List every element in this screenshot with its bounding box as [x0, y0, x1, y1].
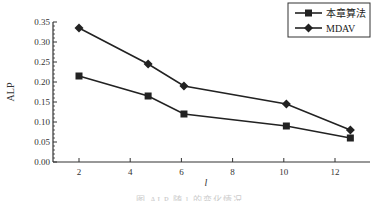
axes: 0.000.050.100.150.200.250.300.3524681012… [5, 17, 370, 188]
diamond-marker [75, 24, 84, 33]
x-tick-label: 6 [179, 167, 184, 177]
diamond-marker [144, 60, 153, 69]
y-tick-label: 0.35 [34, 17, 50, 27]
y-tick-label: 0.10 [34, 117, 50, 127]
x-tick-label: 2 [77, 167, 82, 177]
series-line [79, 76, 350, 138]
y-tick-label: 0.05 [34, 137, 50, 147]
series-proposed [76, 73, 354, 142]
legend: 本章算法MDAV [288, 3, 370, 37]
y-tick-label: 0.15 [34, 97, 50, 107]
legend-label: MDAV [326, 23, 356, 34]
y-tick-label: 0.30 [34, 37, 50, 47]
x-tick-label: 12 [331, 167, 340, 177]
x-tick-label: 10 [279, 167, 289, 177]
x-tick-label: 8 [230, 167, 235, 177]
diamond-marker [282, 100, 291, 109]
figure-caption: 图 ALP 随 l 的变化情况 [0, 193, 379, 201]
diamond-marker [346, 126, 355, 135]
square-marker [180, 111, 187, 118]
x-axis-label: l [205, 177, 208, 188]
x-tick-label: 4 [128, 167, 133, 177]
y-axis-label: ALP [5, 82, 16, 101]
series-group [75, 24, 355, 142]
square-marker [145, 93, 152, 100]
y-tick-label: 0.00 [34, 157, 50, 167]
series-line [79, 28, 350, 130]
y-tick-label: 0.20 [34, 77, 50, 87]
y-tick-label: 0.25 [34, 57, 50, 67]
square-marker [347, 135, 354, 142]
square-marker [283, 123, 290, 130]
diamond-marker [179, 82, 188, 91]
square-marker [305, 10, 312, 17]
line-chart: 0.000.050.100.150.200.250.300.3524681012… [0, 0, 379, 201]
square-marker [76, 73, 83, 80]
legend-label: 本章算法 [326, 7, 366, 19]
